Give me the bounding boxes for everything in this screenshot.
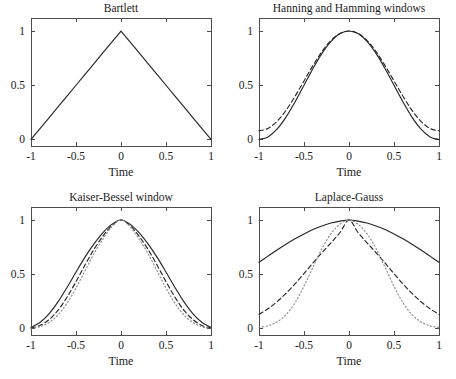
y-tick-label: 0.5 <box>239 268 254 280</box>
plot-panel-kaiser-bessel: Kaiser-Bessel window-1-0.500.5100.51Time <box>0 189 228 379</box>
y-tick-label: 0 <box>247 322 253 334</box>
plot-frame <box>260 208 440 336</box>
x-tick-label: -0.5 <box>67 339 85 351</box>
series-curve <box>259 31 439 139</box>
series-curve <box>259 220 439 314</box>
x-tick-label: 1 <box>436 150 442 162</box>
plot-title: Kaiser-Bessel window <box>69 191 173 203</box>
x-axis-label: Time <box>109 165 134 179</box>
plot-panel-bartlett: Bartlett-1-0.500.5100.51Time <box>0 0 228 190</box>
x-tick-label: 0.5 <box>159 339 174 351</box>
x-tick-label: -1 <box>26 339 36 351</box>
plot-frame <box>32 19 212 147</box>
plot-title: Laplace-Gauss <box>315 191 384 204</box>
plot-panel-laplace-gauss: Laplace-Gauss-1-0.500.5100.51Time <box>228 189 456 379</box>
x-tick-label: 0 <box>346 339 352 351</box>
x-tick-label: 1 <box>208 339 214 351</box>
x-tick-label: 1 <box>208 150 214 162</box>
plot-title: Bartlett <box>104 2 139 14</box>
y-tick-label: 0 <box>19 133 25 145</box>
y-tick-label: 1 <box>19 214 25 226</box>
x-tick-label: -1 <box>254 339 264 351</box>
series-curve <box>31 220 211 327</box>
x-axis-label: Time <box>109 354 134 368</box>
series-curve <box>259 220 439 262</box>
y-tick-label: 0.5 <box>11 79 26 91</box>
plot-frame <box>260 19 440 147</box>
y-tick-label: 1 <box>19 25 25 37</box>
x-tick-label: -0.5 <box>295 150 313 162</box>
windows-figure: Bartlett-1-0.500.5100.51TimeHanning and … <box>0 0 456 379</box>
series-curve <box>31 220 211 328</box>
y-tick-label: 0.5 <box>239 79 254 91</box>
plot-panel-hanning-hamming: Hanning and Hamming windows-1-0.500.5100… <box>228 0 456 190</box>
series-curve <box>31 31 211 139</box>
x-tick-label: 0.5 <box>159 150 174 162</box>
y-tick-label: 1 <box>247 25 253 37</box>
x-tick-label: -1 <box>26 150 36 162</box>
y-tick-label: 0 <box>19 322 25 334</box>
x-tick-label: -1 <box>254 150 264 162</box>
series-curve <box>259 220 439 327</box>
series-curve <box>259 31 439 131</box>
plot-frame <box>32 208 212 336</box>
y-tick-label: 0.5 <box>11 268 26 280</box>
x-tick-label: -0.5 <box>295 339 313 351</box>
x-tick-label: 0 <box>346 150 352 162</box>
x-tick-label: 0.5 <box>387 150 402 162</box>
x-tick-label: 0 <box>118 150 124 162</box>
x-tick-label: 0 <box>118 339 124 351</box>
x-axis-label: Time <box>337 354 362 368</box>
x-tick-label: -0.5 <box>67 150 85 162</box>
x-tick-label: 0.5 <box>387 339 402 351</box>
series-curve <box>31 220 211 328</box>
y-tick-label: 0 <box>247 133 253 145</box>
x-tick-label: 1 <box>436 339 442 351</box>
plot-title: Hanning and Hamming windows <box>273 2 426 15</box>
x-axis-label: Time <box>337 165 362 179</box>
y-tick-label: 1 <box>247 214 253 226</box>
